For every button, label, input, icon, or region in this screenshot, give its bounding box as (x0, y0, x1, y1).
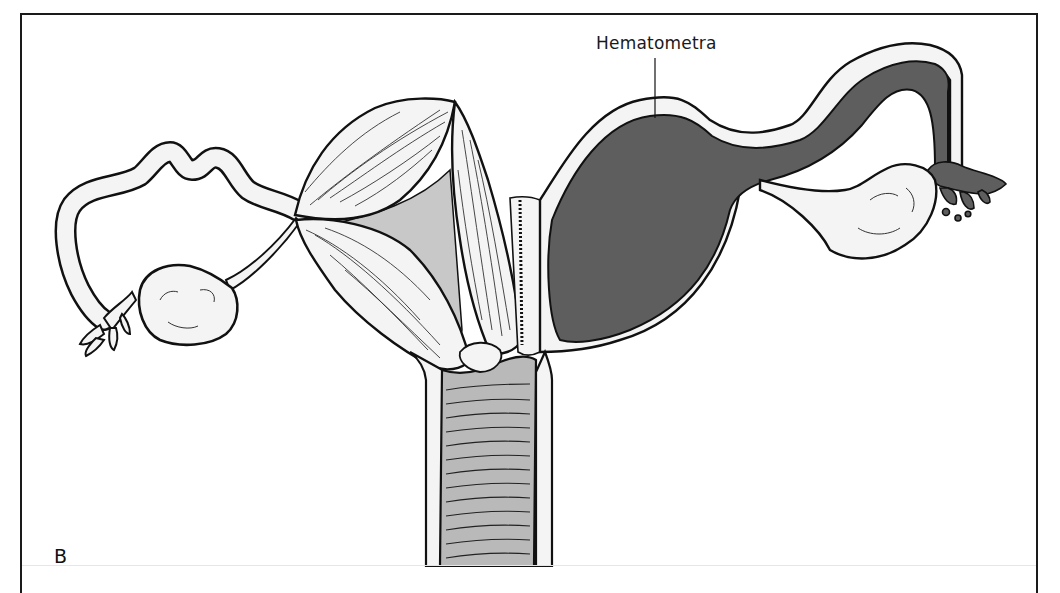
bottom-crop-edge (22, 565, 1036, 566)
hematometra-label: Hematometra (596, 33, 717, 53)
right-ovary (760, 164, 936, 258)
left-ovary (139, 218, 300, 345)
cervix-and-vagina (410, 343, 552, 566)
panel-letter: B (54, 545, 67, 567)
right-fimbriae (928, 162, 1006, 221)
left-uterine-horn (295, 99, 522, 372)
